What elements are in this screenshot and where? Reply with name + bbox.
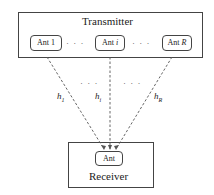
arrowhead-i bbox=[108, 145, 112, 150]
receiver-title: Receiver bbox=[89, 170, 128, 182]
channel-label-1: h1 bbox=[57, 91, 65, 103]
channel-label-R: hR bbox=[154, 91, 162, 103]
channel-line-R bbox=[116, 57, 172, 149]
channel-ellipsis-right: · · · bbox=[123, 78, 142, 88]
antenna-1: Ant 1 bbox=[30, 35, 62, 51]
antenna-R: Ant R bbox=[162, 35, 192, 51]
tx-ellipsis-right: · · · bbox=[132, 38, 151, 48]
channel-ellipsis-left: · · · bbox=[80, 78, 99, 88]
receiver-antenna: Ant bbox=[95, 151, 123, 166]
channel-line-1 bbox=[47, 57, 104, 149]
channel-label-i: hi bbox=[95, 91, 101, 103]
antenna-i: Ant i bbox=[95, 35, 125, 51]
arrowhead-1 bbox=[101, 145, 106, 150]
arrowhead-R bbox=[114, 145, 119, 150]
tx-ellipsis-left: · · · bbox=[66, 38, 85, 48]
transmitter-title: Transmitter bbox=[82, 15, 133, 27]
